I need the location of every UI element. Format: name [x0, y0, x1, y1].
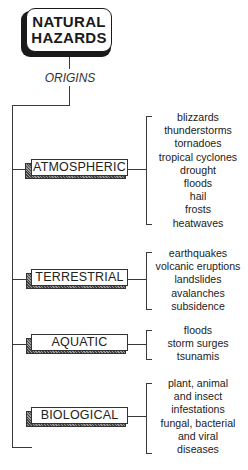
list-item: diseases: [150, 443, 246, 456]
connector-origins-down: [69, 86, 70, 106]
list-item: storm surges: [150, 337, 246, 350]
list-item: tornadoes: [150, 137, 246, 150]
items-atmospheric: blizzards thunderstorms tornadoes tropic…: [150, 111, 246, 230]
link-biological: [128, 416, 147, 417]
connector-title-to-origins: [69, 57, 70, 69]
origins-label: ORIGINS: [40, 71, 100, 85]
category-terrestrial: TERRESTRIAL: [31, 269, 128, 286]
category-biological: BIOLOGICAL: [31, 407, 128, 424]
list-item: floods: [150, 324, 246, 337]
category-aquatic: AQUATIC: [31, 334, 128, 351]
list-item: subsidence: [150, 300, 246, 313]
items-terrestrial: earthquakes volcanic eruptions landslide…: [150, 247, 246, 313]
list-item: frosts: [150, 203, 246, 216]
list-item: drought: [150, 164, 246, 177]
list-item: hail: [150, 190, 246, 203]
title-line-1: NATURAL: [32, 14, 105, 30]
link-aquatic: [128, 344, 147, 345]
title-line-2: HAZARDS: [31, 30, 106, 46]
list-item: earthquakes: [150, 247, 246, 260]
list-item: heatwaves: [150, 217, 246, 230]
list-item: tsunamis: [150, 350, 246, 363]
list-item: tropical cyclones: [150, 151, 246, 164]
branch-biological-join: [12, 416, 13, 448]
trunk-line: [12, 105, 13, 448]
list-item: infestations: [150, 403, 246, 416]
list-item: blizzards: [150, 111, 246, 124]
list-item: and insect: [150, 390, 246, 403]
link-atmospheric: [128, 169, 147, 170]
list-item: landslides: [150, 273, 246, 286]
branch-biological: [12, 447, 32, 448]
title-box: NATURAL HAZARDS: [26, 8, 112, 52]
items-biological: plant, animal and insect infestations fu…: [150, 377, 246, 456]
list-item: fungal, bacterial: [150, 417, 246, 430]
list-item: avalanches: [150, 287, 246, 300]
list-item: floods: [150, 177, 246, 190]
list-item: thunderstorms: [150, 124, 246, 137]
category-atmospheric: ATMOSPHERIC: [31, 159, 128, 176]
link-terrestrial: [128, 279, 147, 280]
list-item: and viral: [150, 430, 246, 443]
items-aquatic: floods storm surges tsunamis: [150, 324, 246, 364]
connector-horizontal-top: [12, 105, 70, 106]
list-item: plant, animal: [150, 377, 246, 390]
list-item: volcanic eruptions: [150, 260, 246, 273]
